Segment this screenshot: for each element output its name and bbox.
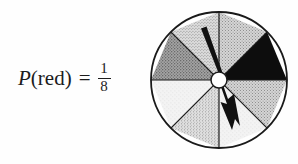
probability-spinner-figure: P(red) = 1 8 [0,0,298,164]
spinner-svg [150,6,288,156]
equation-open-paren: ( [31,68,38,89]
spinner-wheel[interactable] [150,6,288,156]
equation-event-label: red [38,68,65,89]
fraction-numerator: 1 [98,61,110,77]
equation-variable: P [18,68,31,89]
equation-fraction: 1 8 [98,61,111,95]
fraction-denominator: 8 [98,79,110,95]
spinner-center-hub [211,72,227,88]
equation-close-paren: ) [65,68,72,89]
equation-equals-sign: = [79,68,91,89]
probability-equation: P(red) = 1 8 [18,62,111,96]
